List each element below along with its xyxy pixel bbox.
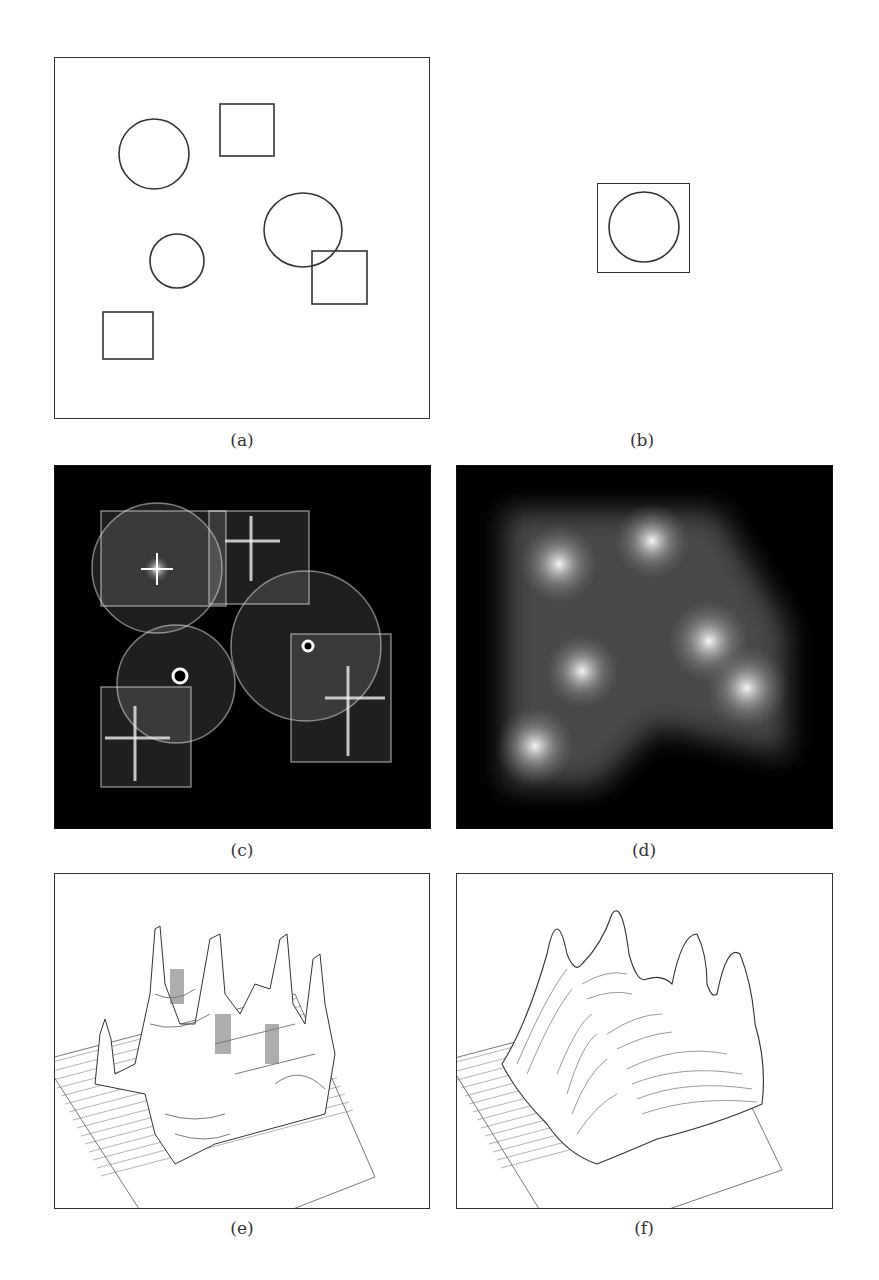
shapes-illustration: [55, 58, 431, 420]
ring-peak: [173, 669, 187, 683]
caption-b: (b): [602, 430, 682, 450]
caption-f: (f): [604, 1218, 684, 1238]
circle-shape: [119, 119, 189, 189]
square-shape: [103, 312, 153, 359]
panel-a-frame: [54, 57, 430, 419]
smoothed-intensity-image: [457, 466, 833, 829]
star-peak: [141, 553, 173, 585]
smoothed-surface-plot: [457, 874, 833, 1209]
ring-peak: [303, 641, 313, 651]
caption-a: (a): [202, 430, 282, 450]
circle-shape: [264, 193, 342, 267]
circle-shape: [150, 234, 204, 288]
panel-d-image: [456, 465, 833, 829]
square-shape: [312, 251, 367, 304]
circle-shape: [609, 192, 679, 262]
template-illustration: [598, 184, 691, 274]
square-shape: [220, 104, 274, 156]
caption-d: (d): [604, 840, 684, 860]
panel-c-image: [54, 465, 431, 829]
panel-f-frame: [456, 873, 833, 1209]
template-frame: [597, 183, 690, 273]
accumulator-image: [55, 466, 431, 829]
panel-e-frame: [54, 873, 430, 1209]
caption-c: (c): [202, 840, 282, 860]
raw-surface-plot: [55, 874, 430, 1209]
caption-e: (e): [202, 1218, 282, 1238]
